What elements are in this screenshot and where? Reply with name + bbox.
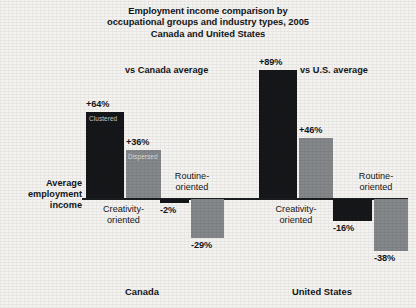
series-label-clustered-canada: Clustered: [89, 115, 117, 122]
country-label-united-states: United States: [292, 286, 352, 297]
chart-title-line-1: Employment income comparison by: [0, 5, 416, 16]
value-label-canada-creativity-dispersed: +36%: [126, 137, 149, 147]
chart-title-line-3: Canada and United States: [0, 28, 416, 39]
value-label-us-routine-dispersed: -38%: [374, 253, 395, 263]
y-axis-label: Average employment income: [6, 178, 82, 211]
value-label-us-creativity-clustered: +89%: [259, 57, 282, 67]
bar-us-routine-dispersed: [374, 199, 408, 251]
group-label-canada-creativity-line-1: Creativity-: [86, 204, 161, 215]
group-label-us-creativity-line-2: oriented: [259, 215, 333, 226]
bar-us-creativity-clustered: [259, 70, 297, 198]
bar-canada-routine-dispersed: [191, 199, 224, 238]
value-label-canada-routine-clustered: -2%: [160, 205, 176, 215]
group-label-canada-routine-line-1: Routine-: [160, 171, 224, 182]
group-label-canada-creativity-line-2: oriented: [86, 215, 161, 226]
y-axis-label-line-2: employment: [6, 189, 82, 200]
chart-figure: Employment income comparison by occupati…: [0, 0, 416, 308]
scan-grain-overlay: [0, 0, 416, 308]
group-label-canada-routine-line-2: oriented: [160, 182, 224, 193]
value-label-us-creativity-dispersed: +46%: [299, 125, 322, 135]
group-label-us-routine-line-2: oriented: [344, 182, 408, 193]
group-label-canada-creativity: Creativity- oriented: [86, 204, 161, 225]
y-axis-label-line-3: income: [6, 200, 82, 211]
group-label-us-creativity-line-1: Creativity-: [259, 204, 333, 215]
panel-caption-united-states: vs U.S. average: [300, 65, 368, 75]
bar-canada-creativity-clustered: [86, 112, 124, 198]
value-label-canada-routine-dispersed: -29%: [191, 240, 212, 250]
series-label-dispersed-canada: Dispersed: [128, 153, 158, 160]
chart-title: Employment income comparison by occupati…: [0, 5, 416, 39]
bar-us-creativity-dispersed: [299, 138, 333, 198]
value-label-us-routine-clustered: -16%: [333, 223, 354, 233]
value-label-canada-creativity-clustered: +64%: [86, 99, 109, 109]
panel-caption-canada: vs Canada average: [125, 65, 208, 75]
group-label-us-routine: Routine- oriented: [344, 171, 408, 192]
country-label-canada: Canada: [125, 286, 159, 297]
group-label-canada-routine: Routine- oriented: [160, 171, 224, 192]
y-axis-label-line-1: Average: [6, 178, 82, 189]
group-label-us-creativity: Creativity- oriented: [259, 204, 333, 225]
chart-title-line-2: occupational groups and industry types, …: [0, 16, 416, 27]
bar-us-routine-clustered: [333, 199, 372, 221]
bar-canada-routine-clustered: [160, 199, 189, 203]
group-label-us-routine-line-1: Routine-: [344, 171, 408, 182]
